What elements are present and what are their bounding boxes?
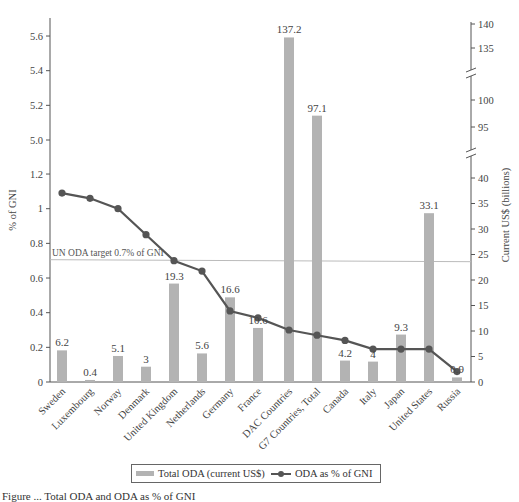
line-marker	[114, 205, 121, 212]
legend-bar-label: Total ODA (current US$)	[158, 468, 265, 479]
left-axis-tick-label: 5.6	[30, 31, 43, 42]
bar-value-label: 10.6	[248, 314, 268, 326]
right-axis-tick-label: 20	[478, 275, 489, 286]
bar	[197, 353, 207, 382]
right-axis-tick-label: 35	[478, 198, 489, 209]
bar-value-label: 97.1	[307, 102, 326, 114]
bar-value-label: 5.1	[111, 342, 125, 354]
bar-value-label: 6.2	[55, 336, 69, 348]
bar	[85, 380, 95, 382]
right-axis-tick-label: 40	[478, 173, 489, 184]
line-marker	[226, 307, 233, 314]
legend-line-label: ODA as % of GNI	[295, 468, 373, 479]
right-axis-tick-label: 5	[478, 351, 483, 362]
right-axis-tick-label: 140	[478, 19, 494, 30]
left-axis-tick-label: 0.4	[30, 307, 44, 318]
left-axis-tick-label: 0.2	[30, 342, 43, 353]
bar	[169, 284, 179, 382]
line-marker	[86, 195, 93, 202]
category-label: Russia	[435, 385, 463, 413]
bar-value-label: 33.1	[419, 199, 438, 211]
bar-value-label: 9.3	[394, 321, 408, 333]
category-label: Japan	[382, 385, 407, 410]
bar-swatch-icon	[136, 471, 154, 476]
bar	[253, 328, 263, 382]
right-axis-tick-label: 95	[478, 122, 489, 133]
bar	[452, 377, 462, 382]
bar	[312, 116, 322, 382]
category-label: Germany	[200, 385, 236, 421]
line-marker	[285, 326, 292, 333]
line-marker	[313, 332, 320, 339]
bar-value-label: 4.2	[338, 347, 352, 359]
bar-value-label: 0.9	[450, 363, 464, 375]
right-axis-tick-label: 30	[478, 224, 489, 235]
line-marker	[397, 345, 404, 352]
left-axis-tick-label: 5.4	[30, 65, 44, 76]
chart-legend: Total ODA (current US$) ODA as % of GNI	[131, 464, 381, 483]
right-axis-tick-label: 100	[478, 95, 494, 106]
right-axis-tick-label: 10	[478, 326, 489, 337]
bar	[141, 367, 151, 382]
bar-value-label: 5.6	[195, 339, 209, 351]
category-label: Canada	[320, 385, 350, 415]
line-marker	[58, 190, 65, 197]
left-axis-tick-label: 1.2	[30, 169, 43, 180]
bar-value-label: 19.3	[164, 270, 184, 282]
left-axis-tick-label: 1	[38, 203, 43, 214]
right-axis-title: Current US$ (billions)	[500, 167, 512, 262]
left-axis-tick-label: 5.0	[30, 135, 43, 146]
left-axis-tick-label: 0	[38, 377, 43, 388]
left-axis-tick-label: 5.2	[30, 100, 43, 111]
bar-value-label: 0.4	[83, 366, 97, 378]
combo-chart: 00.20.40.60.811.25.05.25.45.605101520253…	[0, 0, 519, 470]
right-axis-tick-label: 0	[478, 377, 483, 388]
line-marker	[170, 257, 177, 264]
bar-value-label: 16.6	[220, 283, 240, 295]
left-axis-tick-label: 0.6	[30, 273, 43, 284]
bar	[340, 361, 350, 382]
bar	[368, 362, 378, 382]
target-reference-line	[50, 260, 471, 262]
line-marker	[198, 267, 205, 274]
bar-value-label: 3	[143, 353, 149, 365]
right-axis-tick-label: 135	[478, 43, 494, 54]
bar	[424, 213, 434, 382]
category-label: France	[235, 385, 263, 413]
line-marker	[341, 337, 348, 344]
right-axis-tick-label: 25	[478, 249, 489, 260]
bar-value-label: 137.2	[277, 23, 302, 35]
bar	[113, 356, 123, 382]
right-axis-tick-label: 15	[478, 300, 489, 311]
category-label: Italy	[357, 385, 379, 407]
line-marker	[142, 231, 149, 238]
bar-value-label: 4	[370, 348, 376, 360]
bar	[396, 335, 406, 382]
line-marker	[425, 345, 432, 352]
bar	[57, 350, 67, 382]
left-axis-tick-label: 0.8	[30, 238, 43, 249]
left-axis-title: % of GNI	[7, 189, 18, 231]
target-reference-label: UN ODA target 0.7% of GNI	[52, 248, 164, 258]
figure-caption: Figure ... Total ODA and ODA as % of GNI	[2, 490, 195, 502]
line-marker-icon	[271, 469, 291, 479]
